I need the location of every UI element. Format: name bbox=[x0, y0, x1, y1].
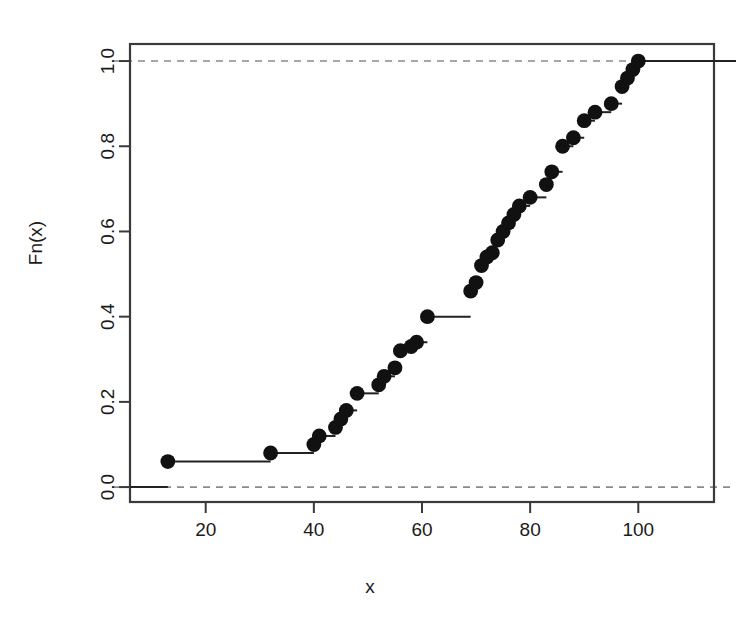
data-point bbox=[469, 275, 484, 290]
data-point bbox=[350, 386, 365, 401]
ecdf-data-points bbox=[160, 54, 645, 469]
y-tick-label: 0.6 bbox=[98, 218, 119, 244]
y-tick-label: 0.4 bbox=[98, 303, 119, 330]
y-tick-label: 0.2 bbox=[98, 389, 119, 415]
x-tick-label: 100 bbox=[622, 519, 654, 540]
plot-frame bbox=[130, 44, 714, 502]
data-point bbox=[388, 360, 403, 375]
y-tick-label: 0.8 bbox=[98, 133, 119, 159]
data-point bbox=[604, 96, 619, 111]
data-point bbox=[409, 335, 424, 350]
x-tick-label: 20 bbox=[195, 519, 216, 540]
y-tick-label: 1.0 bbox=[98, 48, 119, 74]
reference-lines-group bbox=[112, 61, 736, 487]
x-tick-label: 60 bbox=[411, 519, 432, 540]
data-point bbox=[631, 54, 646, 69]
data-point bbox=[523, 190, 538, 205]
data-point bbox=[588, 105, 603, 120]
y-tick-label: 0.0 bbox=[98, 474, 119, 500]
plot-box bbox=[130, 44, 714, 502]
axis-ticks-group bbox=[119, 61, 638, 513]
axis-tick-labels-group: 204060801000.00.20.40.60.81.0 bbox=[98, 48, 655, 540]
ecdf-step-lines bbox=[130, 61, 736, 487]
data-point bbox=[485, 245, 500, 260]
data-point bbox=[544, 164, 559, 179]
data-point bbox=[539, 177, 554, 192]
data-point bbox=[566, 130, 581, 145]
data-point bbox=[263, 446, 278, 461]
ecdf-figure: Fn(x) x 204060801000.00.20.40.60.81.0 bbox=[0, 0, 740, 620]
data-point bbox=[420, 309, 435, 324]
data-point bbox=[160, 454, 175, 469]
x-tick-label: 80 bbox=[520, 519, 541, 540]
x-tick-label: 40 bbox=[303, 519, 324, 540]
data-point bbox=[312, 429, 327, 444]
data-point bbox=[339, 403, 354, 418]
plot-canvas: 204060801000.00.20.40.60.81.0 bbox=[0, 0, 740, 620]
